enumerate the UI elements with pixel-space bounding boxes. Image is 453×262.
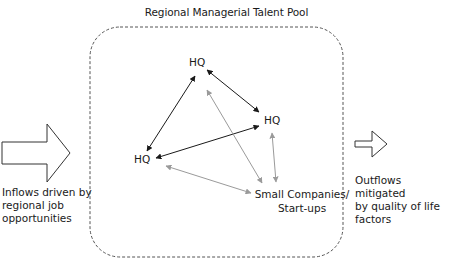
inflow-line2: regional job [2,199,92,212]
outflow-line1: Outflows mitigated [355,174,453,200]
node-hq-top: HQ [189,56,205,68]
arrow-hq-left-small [166,166,251,193]
inflow-caption: Inflows driven by regional job opportuni… [2,186,92,225]
arrow-hq-right-small [272,133,276,182]
node-small-line2: Start-ups [252,201,352,215]
outflow-line2: by quality of life [355,200,453,213]
node-small-line1: Small Companies/ [252,187,352,201]
arrow-hq-top-hq-left [147,76,195,151]
inflow-line3: opportunities [2,212,92,225]
inflow-arrow-icon [2,124,70,182]
node-hq-right: HQ [264,114,280,126]
node-hq-left: HQ [134,153,150,165]
talent-pool-boundary [90,27,343,257]
outflow-caption: Outflows mitigated by quality of life fa… [355,174,453,226]
outflow-line3: factors [355,213,453,226]
outflow-arrow-icon [355,131,387,157]
arrow-hq-top-hq-right [207,70,259,112]
arrow-hq-left-hq-right [156,126,259,158]
inflow-line1: Inflows driven by [2,186,92,199]
node-small-companies: Small Companies/ Start-ups [252,187,352,215]
diagram-title: Regional Managerial Talent Pool [0,6,453,18]
arrow-hq-top-small [207,90,262,183]
